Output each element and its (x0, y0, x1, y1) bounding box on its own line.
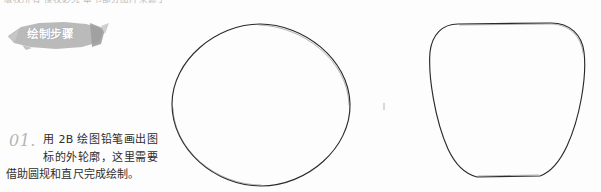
cropped-header-label: 版权所有 侵权必究 本书部分图片来源于网络 (4, 0, 164, 5)
cropped-header-text: 版权所有 侵权必究 本书部分图片来源于网络 (4, 0, 164, 5)
circle-outline-sketch-2 (173, 108, 261, 185)
step-block: 01. 用 2B 绘图铅笔画出图标的外轮廓，这里需要借助圆规和直尺完成绘制。 (6, 131, 158, 184)
figure-rounded-triangle (420, 14, 596, 192)
rounded-triangle-outline-sketch (460, 24, 583, 53)
figure-circle (162, 12, 358, 192)
section-banner: 绘制步骤 (6, 20, 110, 50)
circle-outline-sketch (259, 25, 349, 105)
section-banner-label: 绘制步骤 (27, 26, 73, 42)
tutorial-page: 版权所有 侵权必究 本书部分图片来源于网络 绘制步骤 01. 用 2B 绘图铅笔… (0, 0, 601, 192)
circle-outline (172, 24, 350, 186)
paper-speck (383, 103, 385, 110)
step-number: 01. (9, 132, 36, 150)
rounded-triangle-outline (430, 23, 585, 177)
